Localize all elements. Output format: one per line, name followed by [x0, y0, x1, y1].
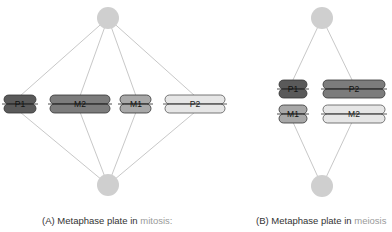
caption-a-prefix: (A) Metaphase plate in	[42, 215, 140, 226]
label-a-p2: P2	[190, 99, 201, 109]
label-b-m1: M1	[287, 109, 299, 119]
label-b-p2: P2	[349, 84, 360, 94]
diagram-canvas: P1 M2 M1 P2 P1 P2 M1 M2	[0, 0, 392, 232]
panel-b-top-pole	[311, 7, 333, 29]
panel-a-bottom-pole	[97, 174, 119, 196]
caption-b-highlight: meiosis	[354, 215, 386, 226]
panel-a-top-pole	[97, 7, 119, 29]
label-a-p1: P1	[15, 99, 26, 109]
label-a-m2: M2	[74, 99, 86, 109]
panel-b-spindle	[292, 18, 353, 186]
caption-a: (A) Metaphase plate in mitosis:	[42, 215, 172, 226]
caption-b: (B) Metaphase plate in meiosis	[256, 215, 386, 226]
caption-b-prefix: (B) Metaphase plate in	[256, 215, 354, 226]
caption-a-highlight: mitosis:	[140, 215, 172, 226]
label-b-m2: M2	[348, 109, 360, 119]
label-a-m1: M1	[130, 99, 142, 109]
panel-b-bottom-pole	[311, 175, 333, 197]
label-b-p1: P1	[288, 84, 299, 94]
